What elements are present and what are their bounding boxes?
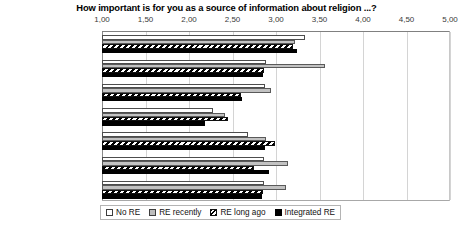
category-row: family <box>102 32 449 56</box>
legend-swatch-icon <box>275 209 282 216</box>
category-row: Internet <box>102 178 449 202</box>
legend-label: RE recently <box>159 208 201 217</box>
bar <box>102 121 205 125</box>
bar <box>102 49 297 53</box>
plot-area: familyschoolfriendsreligious communitybo… <box>102 31 450 201</box>
legend-item[interactable]: RE long ago <box>210 208 265 217</box>
x-tick-label: 1,00 <box>94 15 110 24</box>
legend-label: RE long ago <box>220 208 265 217</box>
bar <box>102 73 263 77</box>
gridline <box>450 32 451 200</box>
bar <box>102 97 242 101</box>
legend-item[interactable]: RE recently <box>149 208 201 217</box>
x-tick-label: 2,50 <box>225 15 241 24</box>
category-row: religious community <box>102 105 449 129</box>
x-tick-label: 3,00 <box>268 15 284 24</box>
x-tick-label: 3,50 <box>312 15 328 24</box>
bar <box>102 146 265 150</box>
bar <box>102 194 262 198</box>
legend-item[interactable]: Integrated RE <box>275 208 336 217</box>
legend-swatch-icon <box>149 209 156 216</box>
chart-legend: No RERE recentlyRE long agoIntegrated RE <box>100 205 341 220</box>
category-row: friends <box>102 81 449 105</box>
x-tick-label: 4,50 <box>399 15 415 24</box>
category-row: school <box>102 56 449 80</box>
chart-title: How important is for you as a source of … <box>0 2 453 13</box>
category-row: media <box>102 153 449 177</box>
legend-swatch-icon <box>210 209 217 216</box>
legend-item[interactable]: No RE <box>106 208 140 217</box>
x-tick-label: 5,00 <box>442 15 458 24</box>
x-tick-label: 1,50 <box>138 15 154 24</box>
legend-swatch-icon <box>106 209 113 216</box>
x-tick-label: 4,00 <box>355 15 371 24</box>
bar <box>102 170 269 174</box>
x-tick-label: 2,00 <box>181 15 197 24</box>
legend-label: No RE <box>116 208 140 217</box>
legend-label: Integrated RE <box>285 208 336 217</box>
category-row: books <box>102 129 449 153</box>
x-axis-tick-labels: 1,001,502,002,503,003,504,004,505,00 <box>0 15 453 27</box>
